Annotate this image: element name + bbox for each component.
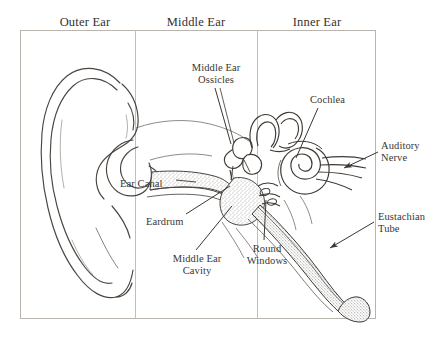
label-auditory-nerve: Auditory Nerve	[381, 140, 443, 164]
leader-eustachian-tube	[330, 222, 374, 248]
leader-ossicles	[215, 88, 231, 144]
label-eustachian-line1: Eustachian	[378, 211, 425, 222]
label-eustachian-tube: Eustachian Tube	[378, 211, 442, 235]
label-ear-canal: Ear Canal	[120, 178, 180, 190]
label-auditory-line2: Nerve	[381, 152, 407, 163]
label-ossicles-line1: Middle Ear	[192, 62, 241, 73]
leader-middle-ear-cavity	[196, 206, 232, 250]
leader-auditory-nerve	[344, 152, 378, 168]
label-round-windows: Round Windows	[239, 243, 295, 267]
cochlea	[278, 141, 329, 194]
label-round-line2: Windows	[247, 255, 288, 266]
ear-anatomy-illustration	[0, 0, 444, 346]
label-eardrum: Eardrum	[146, 216, 200, 228]
label-round-line1: Round	[253, 243, 282, 254]
label-ossicles-line2: Ossicles	[198, 74, 234, 85]
label-auditory-line1: Auditory	[381, 140, 420, 151]
label-eustachian-line2: Tube	[378, 223, 400, 234]
label-middle-ear-cavity: Middle Ear Cavity	[162, 253, 232, 277]
leader-cochlea	[296, 108, 318, 158]
ear-anatomy-figure: Outer Ear Middle Ear Inner Ear	[0, 0, 444, 346]
middle-ear-ossicles	[224, 138, 261, 180]
label-cochlea: Cochlea	[310, 94, 370, 106]
label-middle-ear-ossicles: Middle Ear Ossicles	[185, 62, 247, 86]
label-cavity-line2: Cavity	[183, 265, 212, 276]
label-cavity-line1: Middle Ear	[173, 253, 222, 264]
